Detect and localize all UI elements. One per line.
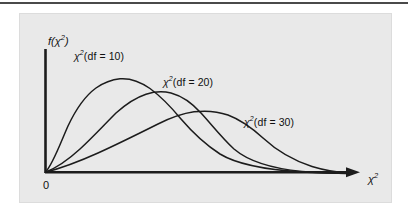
x-axis-arrow-icon: [346, 167, 360, 177]
chi-square-plot-svg: [20, 14, 393, 204]
origin-tick-label: 0: [43, 180, 49, 191]
curve-label-df-30-text: (df = 30): [254, 116, 294, 128]
curve-label-df-20: χ2(df = 20): [163, 75, 213, 87]
density-curve-df-30: [46, 111, 353, 173]
y-axis-label-prefix: f(: [48, 35, 55, 47]
curve-label-df-30: χ2(df = 30): [244, 115, 294, 127]
y-axis-label: f(χ2): [48, 34, 69, 47]
curve-label-df-10: χ2(df = 10): [74, 49, 124, 61]
curve-label-df-10-text: (df = 10): [84, 50, 124, 62]
top-horizontal-rule: [0, 2, 408, 4]
x-axis-label: χ2: [368, 172, 378, 185]
y-axis-label-suffix: ): [65, 35, 69, 47]
density-curve-df-10: [46, 79, 353, 174]
x-axis-chi-superscript: 2: [374, 171, 378, 180]
chi-square-distribution-figure: f(χ2) χ2 0 χ2(df = 10) χ2(df = 20) χ2(df…: [19, 13, 392, 203]
curve-label-df-20-text: (df = 20): [173, 76, 213, 88]
density-curve-df-20: [46, 92, 353, 174]
